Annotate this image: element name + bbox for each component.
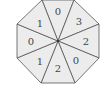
sector-label-left: 0 [28, 36, 34, 47]
sector-label-bottom-left: 1 [37, 56, 43, 67]
octagon-spinner: 0 3 2 0 2 1 0 1 [0, 0, 106, 92]
sector-label-top-right: 3 [76, 16, 82, 27]
sector-label-bottom: 2 [55, 63, 61, 74]
sector-label-right: 2 [83, 36, 89, 47]
center-pivot-icon [57, 40, 59, 42]
sector-label-top-left: 1 [37, 18, 43, 29]
sector-label-top: 0 [55, 6, 61, 17]
sector-label-bottom-right: 0 [73, 55, 79, 66]
